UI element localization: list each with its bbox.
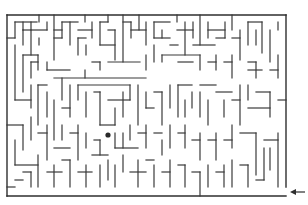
maze-walls xyxy=(7,15,286,196)
goal-dot xyxy=(105,132,110,137)
arrow-left-icon xyxy=(290,189,305,195)
maze xyxy=(0,0,308,205)
